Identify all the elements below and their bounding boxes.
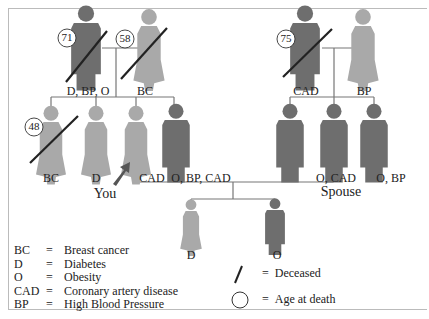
abbreviation-legend: BC=Breast cancer D=Diabetes O=Obesity CA…: [14, 244, 178, 312]
legend-meaning: Coronary artery disease: [64, 285, 178, 299]
children-figures: [180, 198, 285, 256]
maternal-grandfather: [290, 5, 320, 90]
paternal-grandmother: [133, 9, 164, 91]
legend-meaning: Age at death: [275, 292, 336, 306]
legend-meaning: High Blood Pressure: [64, 298, 164, 312]
age-circle-symbol-icon: [232, 292, 248, 308]
age-label: 75: [281, 32, 292, 44]
maternal-grandmother: [347, 9, 378, 91]
legend-meaning: Deceased: [275, 266, 321, 280]
you-label: You: [94, 186, 117, 202]
legend-abbr: BP: [14, 298, 46, 312]
condition-label: O, BP, CAD: [171, 171, 230, 186]
legend-abbr: BC: [14, 244, 46, 258]
legend-abbr: D: [14, 258, 46, 272]
condition-label: O: [273, 248, 282, 263]
condition-label: D, BP, O: [67, 84, 110, 99]
legend-eq: =: [46, 258, 64, 272]
legend-eq: =: [262, 292, 269, 306]
legend-abbr: O: [14, 271, 46, 285]
spouse-label: Spouse: [321, 184, 361, 200]
paternal-grandfather: [71, 5, 101, 90]
condition-label: BP: [357, 84, 372, 99]
condition-label: CAD: [139, 171, 164, 186]
legend-meaning: Diabetes: [64, 258, 106, 272]
condition-label: O, BP: [376, 171, 405, 186]
symbol-legend-age: = Age at death: [262, 293, 335, 307]
condition-label: BC: [137, 84, 153, 99]
age-label: 58: [120, 32, 131, 44]
age-label: 48: [29, 120, 40, 132]
legend-meaning: Obesity: [64, 271, 101, 285]
condition-label: D: [92, 171, 101, 186]
legend-eq: =: [46, 244, 64, 258]
condition-label: D: [187, 248, 196, 263]
legend-eq: =: [46, 285, 64, 299]
age-label: 71: [62, 31, 73, 43]
legend-eq: =: [262, 266, 269, 280]
condition-label: BC: [43, 171, 59, 186]
deceased-symbol-icon: [235, 266, 242, 283]
legend-eq: =: [46, 271, 64, 285]
legend-meaning: Breast cancer: [64, 244, 129, 258]
legend-abbr: CAD: [14, 285, 46, 299]
legend-eq: =: [46, 298, 64, 312]
symbol-legend-deceased: = Deceased: [262, 267, 321, 281]
condition-label: CAD: [293, 84, 318, 99]
